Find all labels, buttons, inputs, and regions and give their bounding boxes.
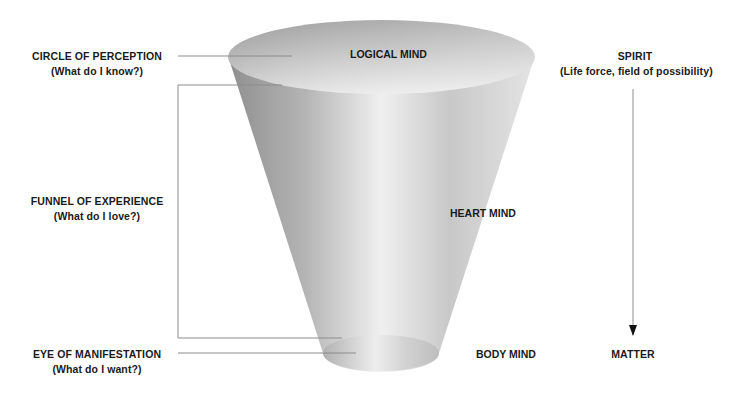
body-mind-label: BODY MIND xyxy=(476,348,536,360)
spirit-label: SPIRIT (Life force, field of possibility… xyxy=(560,49,710,79)
eye-of-manifestation-title: EYE OF MANIFESTATION xyxy=(33,348,161,360)
spirit-title: SPIRIT xyxy=(618,50,652,62)
circle-of-perception-label: CIRCLE OF PERCEPTION (What do I know?) xyxy=(22,49,172,79)
circle-of-perception-question: (What do I know?) xyxy=(22,64,172,79)
funnel-of-experience-label: FUNNEL OF EXPERIENCE (What do I love?) xyxy=(22,194,172,224)
eye-of-manifestation-label: EYE OF MANIFESTATION (What do I want?) xyxy=(22,347,172,377)
logical-mind-label: LOGICAL MIND xyxy=(350,48,427,60)
matter-label: MATTER xyxy=(583,347,683,362)
heart-mind-label: HEART MIND xyxy=(450,207,516,219)
spirit-subtitle: (Life force, field of possibility) xyxy=(560,64,710,79)
funnel-of-experience-title: FUNNEL OF EXPERIENCE xyxy=(31,195,164,207)
funnel-of-experience-question: (What do I love?) xyxy=(22,209,172,224)
circle-of-perception-title: CIRCLE OF PERCEPTION xyxy=(32,50,162,62)
eye-of-manifestation-question: (What do I want?) xyxy=(22,362,172,377)
arrow-down-icon xyxy=(629,325,637,336)
